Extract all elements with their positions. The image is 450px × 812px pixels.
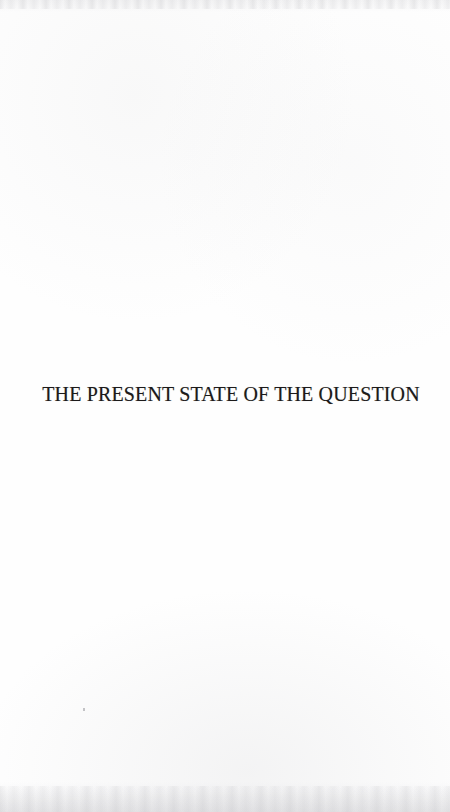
page-heading-block: THE PRESENT STATE OF THE QUESTION bbox=[0, 383, 450, 405]
top-edge-scan-shading bbox=[0, 0, 450, 9]
dust-speck-artifact bbox=[83, 708, 85, 711]
bottom-edge-scan-shading bbox=[0, 786, 450, 812]
paper-tone-overlay bbox=[0, 0, 450, 812]
scanned-page: THE PRESENT STATE OF THE QUESTION bbox=[0, 0, 450, 812]
page-title: THE PRESENT STATE OF THE QUESTION bbox=[30, 383, 420, 405]
